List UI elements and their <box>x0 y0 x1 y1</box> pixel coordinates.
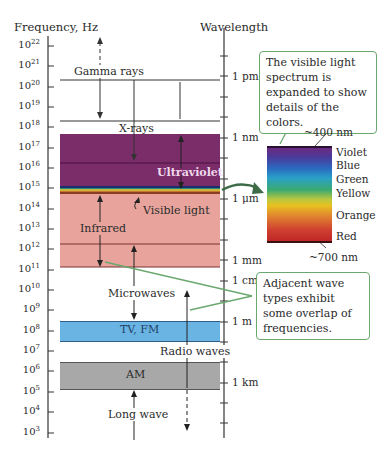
gamma-rays-label: Gamma rays <box>73 65 145 78</box>
wavelength-label-nm: 1 nm <box>232 131 259 143</box>
freq-tick: 106 <box>6 363 40 375</box>
freq-tick: 1017 <box>6 140 40 152</box>
freq-tick: 1013 <box>6 221 40 233</box>
freq-tick: 1020 <box>6 79 40 91</box>
green-label: Green <box>336 173 369 185</box>
long-wave-label: Long wave <box>108 408 168 421</box>
freq-tick: 105 <box>6 384 40 396</box>
freq-tick: 1012 <box>6 241 40 253</box>
xrays-label: X-rays <box>119 122 154 135</box>
freq-tick: 1022 <box>6 38 40 50</box>
yellow-label: Yellow <box>336 187 370 199</box>
freq-tick: 1015 <box>6 180 40 192</box>
overlap-callout: Adjacent wave types exhibit some overlap… <box>256 272 370 340</box>
visible-spectrum-callout: The visible light spectrum is expanded t… <box>259 51 377 134</box>
blue-label: Blue <box>336 159 360 171</box>
freq-tick: 1011 <box>6 262 40 274</box>
wavelength-label-pm: 1 pm <box>232 70 259 82</box>
visible-light-label: Visible light <box>143 204 210 217</box>
freq-tick: 1019 <box>6 99 40 111</box>
freq-tick: 1014 <box>6 201 40 213</box>
wavelength-label-m: 1 m <box>232 315 252 327</box>
radio-waves-label: Radio waves <box>160 345 230 358</box>
freq-tick: 104 <box>6 404 40 416</box>
freq-tick: 109 <box>6 302 40 314</box>
violet-label: Violet <box>336 146 367 158</box>
freq-tick: 103 <box>6 425 40 437</box>
freq-tick: 1018 <box>6 119 40 131</box>
freq-tick: 1016 <box>6 160 40 172</box>
freq-tick: 1021 <box>6 58 40 70</box>
red-label: Red <box>336 230 357 242</box>
infrared-label: Infrared <box>80 222 126 235</box>
microwaves-label: Microwaves <box>108 287 175 300</box>
am-label: AM <box>126 368 145 381</box>
orange-label: Orange <box>336 209 376 221</box>
visible-spectrum-bar <box>267 146 332 243</box>
freq-tick: 108 <box>6 323 40 335</box>
tv-fm-label: TV, FM <box>120 323 159 336</box>
wavelength-label-mm: 1 mm <box>232 254 262 266</box>
spectrum-700nm-label: ~700 nm <box>309 251 358 263</box>
ultraviolet-label: Ultraviolet <box>157 166 223 179</box>
wavelength-label-cm: 1 cm <box>232 274 258 286</box>
spectrum-400nm-label: ~400 nm <box>304 126 353 138</box>
wavelength-label-um: 1 μm <box>232 192 259 204</box>
wavelength-label-km: 1 km <box>232 376 258 388</box>
freq-tick: 1010 <box>6 282 40 294</box>
freq-tick: 107 <box>6 343 40 355</box>
